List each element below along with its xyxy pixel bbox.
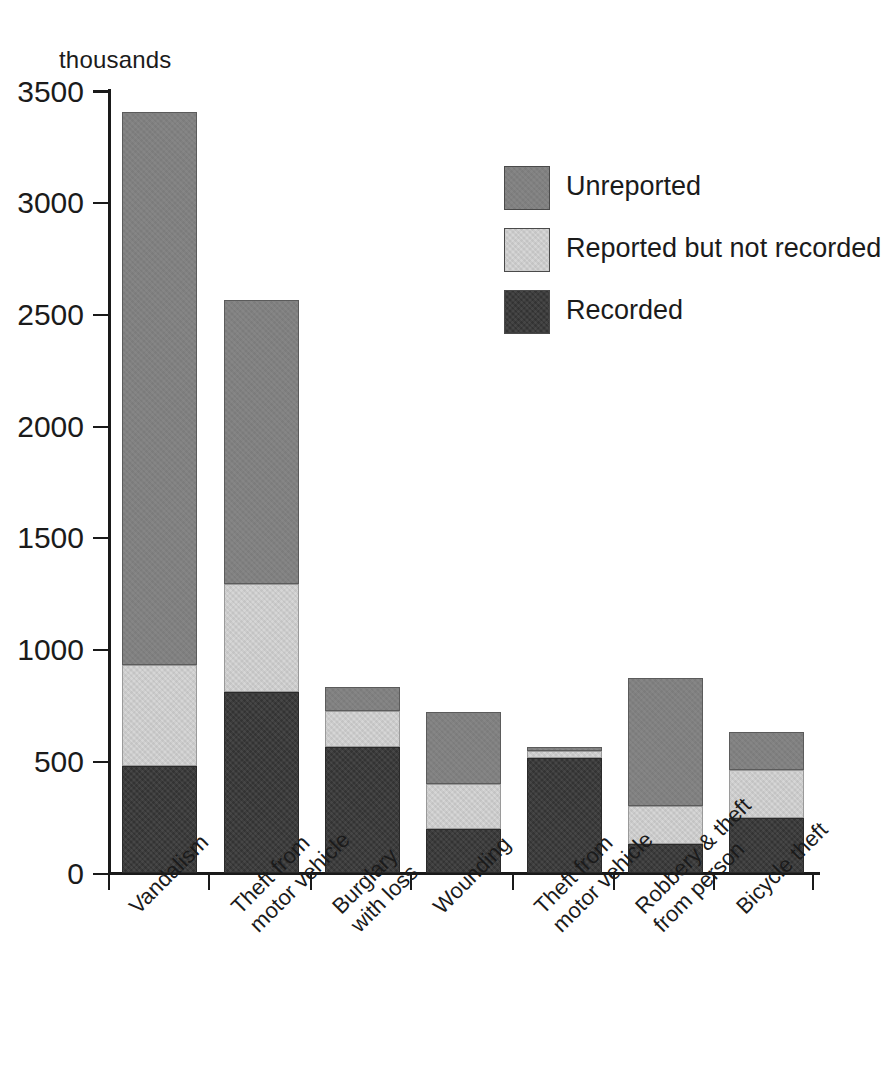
bar-segment-reported-but-not-recorded[interactable] [325,711,400,747]
legend: UnreportedReported but not recordedRecor… [504,163,864,349]
bar-segment-unreported[interactable] [325,687,400,710]
x-axis-tick-7 [812,873,814,890]
legend-item-reported[interactable]: Reported but not recorded [504,225,864,287]
bar-segment-reported-but-not-recorded[interactable] [527,751,602,758]
legend-item-unreported[interactable]: Unreported [504,163,864,225]
legend-item-recorded[interactable]: Recorded [504,287,864,349]
legend-label-recorded: Recorded [566,293,683,327]
x-axis-tick-0 [108,873,110,890]
bar-segment-reported-but-not-recorded[interactable] [426,784,501,830]
y-axis-tick-label: 3500 [17,77,84,107]
legend-label-reported: Reported but not recorded [566,231,881,265]
y-axis-tick-label: 0 [67,859,84,889]
bar-segment-unreported[interactable] [628,678,703,806]
legend-swatch-recorded [504,290,550,334]
x-axis-tick-1 [208,873,210,890]
y-axis-tick-label: 500 [34,747,84,777]
y-axis-tick-label: 3000 [17,188,84,218]
y-axis-tick-label: 2500 [17,300,84,330]
bar-2[interactable] [224,300,299,873]
bar-1[interactable] [122,112,197,873]
legend-swatch-reported [504,228,550,272]
bar-segment-unreported[interactable] [426,712,501,784]
bar-segment-unreported[interactable] [224,300,299,584]
y-axis-unit-label: thousands [59,46,172,74]
bar-segment-unreported[interactable] [729,732,804,770]
bar-segment-reported-but-not-recorded[interactable] [224,584,299,691]
y-axis-tick-label: 1500 [17,523,84,553]
legend-label-unreported: Unreported [566,169,701,203]
y-axis-tick-label: 1000 [17,635,84,665]
bar-segment-unreported[interactable] [527,747,602,751]
bar-segment-reported-but-not-recorded[interactable] [122,665,197,766]
bar-segment-unreported[interactable] [122,112,197,665]
y-axis-tick-label: 2000 [17,412,84,442]
legend-swatch-unreported [504,166,550,210]
x-axis-tick-4 [512,873,514,890]
